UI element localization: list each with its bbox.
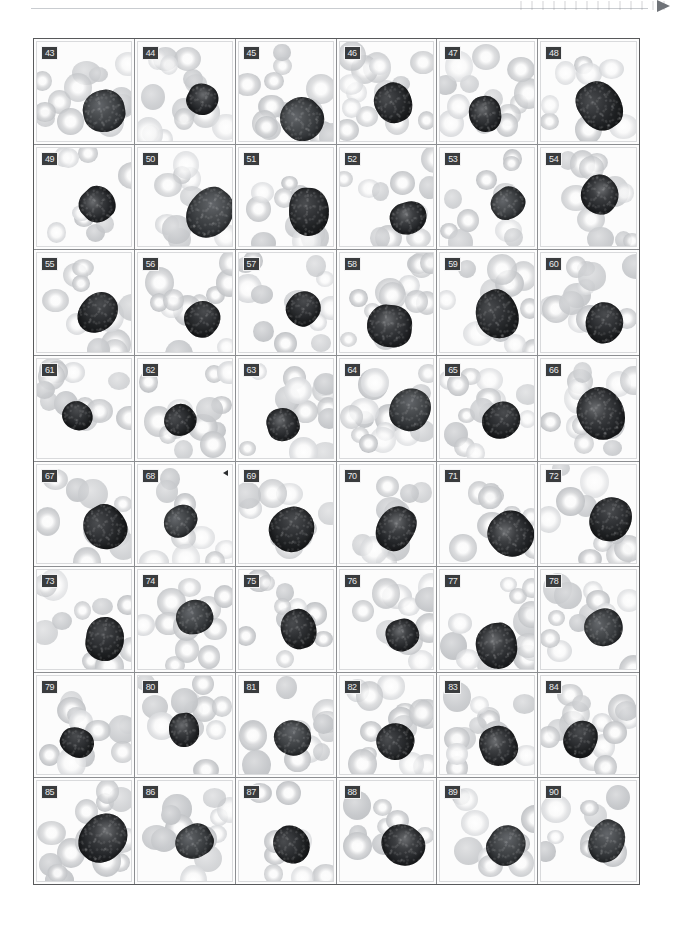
micrograph-panel[interactable]: 61 [34,356,135,462]
micrograph-panel[interactable]: 80 [135,673,236,779]
erythrocyte [291,866,314,882]
micrograph-panel[interactable]: 52 [337,145,438,251]
panel-number-badge: 76 [344,574,361,588]
erythrocyte [276,781,300,805]
micrograph-panel[interactable]: 54 [538,145,639,251]
erythrocyte [36,507,60,536]
erythrocyte [548,610,565,626]
micrograph-panel[interactable]: 46 [337,39,438,145]
panel-film-frame: 82 [339,675,435,776]
erythrocyte [198,645,220,668]
panel-number-badge: 66 [545,363,562,377]
erythrocyte [274,332,297,353]
micrograph-panel[interactable]: 87 [236,778,337,884]
micrograph-panel[interactable]: 89 [437,778,538,884]
micrograph-panel[interactable]: 45 [236,39,337,145]
micrograph-panel[interactable]: 67 [34,462,135,568]
micrograph-panel[interactable]: 72 [538,462,639,568]
erythrocyte [92,598,113,615]
micrograph-panel[interactable]: 83 [437,673,538,779]
erythrocyte [253,321,274,342]
micrograph-panel[interactable]: 47 [437,39,538,145]
panel-film-frame: 84 [540,675,637,776]
panel-film-frame: 76 [339,569,435,670]
micrograph-panel[interactable]: 76 [337,567,438,673]
micrograph-panel[interactable]: 77 [437,567,538,673]
micrograph-panel[interactable]: 75 [236,567,337,673]
erythrocyte [447,94,470,119]
panel-film-frame: 48 [540,41,637,142]
micrograph-panel[interactable]: 49 [34,145,135,251]
erythrocyte [196,397,224,422]
erythrocyte [118,162,132,188]
erythrocyte [74,601,92,620]
micrograph-panel[interactable]: 71 [437,462,538,568]
erythrocyte [318,408,334,429]
micrograph-panel[interactable]: 51 [236,145,337,251]
micrograph-panel[interactable]: 62 [135,356,236,462]
erythrocyte [578,262,606,291]
micrograph-panel[interactable]: 59 [437,250,538,356]
erythrocyte [314,631,333,647]
panel-number-badge: 55 [41,257,58,271]
panel-number-badge: 59 [444,257,461,271]
micrograph-panel[interactable]: 90 [538,778,639,884]
panel-film-frame: 64 [339,358,435,459]
erythrocyte [255,116,278,138]
micrograph-panel[interactable]: 70 [337,462,438,568]
micrograph-panel[interactable]: 64 [337,356,438,462]
micrograph-panel[interactable]: 57 [236,250,337,356]
erythrocyte [251,285,273,304]
panel-film-frame: 55 [36,252,132,353]
micrograph-panel[interactable]: 53 [437,145,538,251]
erythrocyte [36,71,52,91]
micrograph-panel[interactable]: 65 [437,356,538,462]
panel-film-frame: 46 [339,41,435,142]
micrograph-panel[interactable]: 55 [34,250,135,356]
erythrocyte [161,805,180,825]
micrograph-panel[interactable]: 68 [135,462,236,568]
micrograph-panel[interactable]: 82 [337,673,438,779]
panel-number-badge: 57 [243,257,260,271]
micrograph-panel[interactable]: 44 [135,39,236,145]
erythrocyte [516,384,535,404]
erythrocyte [606,785,630,810]
micrograph-panel[interactable]: 84 [538,673,639,779]
micrograph-panel[interactable]: 56 [135,250,236,356]
erythrocyte [418,364,434,384]
erythrocyte [276,650,294,668]
erythrocyte [503,156,520,171]
micrograph-panel[interactable]: 86 [135,778,236,884]
micrograph-panel[interactable]: 66 [538,356,639,462]
micrograph-panel[interactable]: 88 [337,778,438,884]
erythrocyte [540,412,561,432]
micrograph-panel[interactable]: 73 [34,567,135,673]
panel-film-frame: 81 [238,675,334,776]
micrograph-panel[interactable]: 50 [135,145,236,251]
panel-number-badge: 52 [344,152,361,166]
erythrocyte [369,57,390,75]
panel-number-badge: 88 [344,785,361,799]
micrograph-panel[interactable]: 81 [236,673,337,779]
micrograph-panel[interactable]: 78 [538,567,639,673]
erythrocyte [339,171,354,187]
erythrocyte [174,440,193,459]
micrograph-panel[interactable]: 85 [34,778,135,884]
micrograph-panel[interactable]: 48 [538,39,639,145]
panel-number-badge: 71 [444,469,461,483]
micrograph-panel[interactable]: 74 [135,567,236,673]
erythrocyte [559,291,585,315]
erythrocyte [448,613,472,634]
panel-number-badge: 83 [444,680,461,694]
micrograph-panel[interactable]: 58 [337,250,438,356]
micrograph-panel[interactable]: 79 [34,673,135,779]
panel-film-frame: 90 [540,780,637,882]
erythrocyte [418,111,434,130]
erythrocyte [339,119,360,141]
micrograph-panel[interactable]: 60 [538,250,639,356]
micrograph-panel[interactable]: 63 [236,356,337,462]
erythrocyte [573,362,592,383]
micrograph-panel[interactable]: 69 [236,462,337,568]
micrograph-panel[interactable]: 43 [34,39,135,145]
erythrocyte [340,332,357,347]
